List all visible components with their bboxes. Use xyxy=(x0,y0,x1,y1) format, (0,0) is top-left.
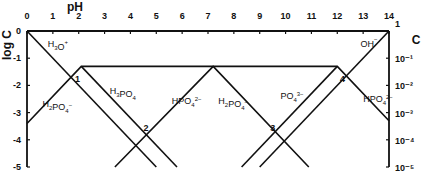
series-line-h2po4- xyxy=(27,66,309,167)
y-tick-label-left: -2 xyxy=(13,80,21,90)
species-label: H2PO4− xyxy=(43,99,73,114)
y-axis-title-right: C xyxy=(412,33,421,47)
x-tick-label: 9 xyxy=(257,11,262,21)
x-tick-label: 3 xyxy=(102,11,107,21)
y-tick-label-right: 10⁻⁵ xyxy=(395,163,414,173)
y-tick-label-right: 10⁻³ xyxy=(395,109,413,119)
species-label: PO43− xyxy=(280,91,304,103)
x-tick-label: 0 xyxy=(24,11,29,21)
series-line-hpo4-2- xyxy=(115,66,389,167)
x-tick-label: 7 xyxy=(205,11,210,21)
species-label: H3PO4 xyxy=(110,86,137,101)
y-tick-label-right: 10⁻¹ xyxy=(395,54,413,64)
species-label: HPO42− xyxy=(172,96,202,108)
y-tick-label-left: -1 xyxy=(13,53,21,63)
x-tick-label: 1 xyxy=(50,11,55,21)
x-tick-label: 10 xyxy=(281,11,291,21)
crossing-point-label: 4 xyxy=(340,74,345,84)
species-label: H3O+ xyxy=(48,39,69,52)
crossing-point-label: 3 xyxy=(270,123,275,133)
y-axis-title-left: log C xyxy=(0,30,14,60)
x-tick-label: 4 xyxy=(128,11,133,21)
crossing-point-label: 1 xyxy=(75,74,80,84)
x-tick-label: 5 xyxy=(154,11,159,21)
y-tick-label-right: 10⁻² xyxy=(395,81,413,91)
log-concentration-diagram: 012345678910111213140-1-2-3-4-5110⁻¹10⁻²… xyxy=(0,0,429,181)
y-tick-label-right: 1 xyxy=(395,19,400,29)
y-tick-label-right: 10⁻⁴ xyxy=(395,136,414,146)
x-tick-label: 12 xyxy=(332,11,342,21)
y-tick-label-left: -5 xyxy=(13,162,21,172)
x-axis-title: pH xyxy=(67,0,83,14)
series-line-po4-3- xyxy=(242,66,338,167)
x-tick-label: 8 xyxy=(231,11,236,21)
x-tick-label: 14 xyxy=(384,11,394,21)
x-tick-label: 11 xyxy=(307,11,317,21)
x-tick-label: 13 xyxy=(358,11,368,21)
species-label: H2PO4− xyxy=(218,96,248,111)
y-tick-label-left: 0 xyxy=(16,26,21,36)
x-tick-label: 6 xyxy=(180,11,185,21)
y-tick-label-left: -3 xyxy=(13,108,21,118)
y-tick-label-left: -4 xyxy=(13,135,21,145)
crossing-point-label: 2 xyxy=(143,123,148,133)
species-label: OH− xyxy=(361,36,379,49)
